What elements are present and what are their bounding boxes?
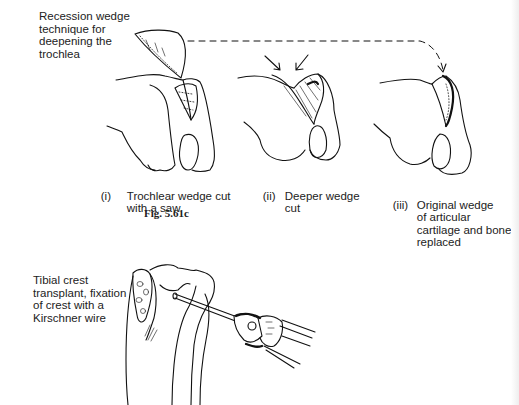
tibial-crest-label: Tibial crest transplant, fixation of cre… (33, 274, 126, 324)
step-ii-numeral: (ii) (263, 190, 285, 203)
textbook-figure-page: Recession wedge technique for deepening … (0, 0, 519, 405)
page-edge-shadow (511, 0, 519, 405)
step-i-numeral: (i) (101, 190, 127, 203)
step-iii-numeral: (iii) (393, 199, 417, 212)
figure-caption: Fig. 5.61c (144, 207, 189, 219)
dashed-arrow (188, 41, 443, 70)
step-iii-text: Original wedge of articular cartilage an… (417, 199, 512, 249)
recession-wedge-label: Recession wedge technique for deepening … (39, 10, 130, 60)
femur-wedge-replaced-illustration (374, 76, 471, 174)
step-ii-text: Deeper wedge cut (285, 190, 360, 215)
femur-deeper-cut-illustration (238, 55, 340, 161)
step-ii-label: (ii)Deeper wedge cut (250, 177, 360, 227)
step-i-label: (i)Trochlear wedge cut with a saw (88, 177, 231, 227)
step-iii-label: (iii)Original wedge of articular cartila… (380, 186, 511, 261)
tibia-kirschner-wire-illustration (126, 265, 315, 405)
